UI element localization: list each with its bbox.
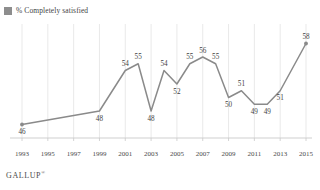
x-tick-label: 2007 xyxy=(196,150,210,158)
x-tick-label: 2001 xyxy=(118,150,132,158)
data-label: 50 xyxy=(225,101,233,109)
data-label: 46 xyxy=(18,128,26,136)
data-label: 48 xyxy=(96,115,104,123)
gallup-line-chart: % Completely satisfied 46485455485452555… xyxy=(0,0,320,190)
registered-mark: ® xyxy=(41,170,45,175)
x-axis-tick-labels: 1993199519971999200120032005200720092011… xyxy=(8,150,312,164)
x-tick-label: 2011 xyxy=(247,150,261,158)
x-tick-label: 2009 xyxy=(222,150,236,158)
x-tick-label: 1997 xyxy=(67,150,81,158)
data-label: 55 xyxy=(135,53,143,61)
series-point xyxy=(20,123,24,127)
series-plot: 46485455485452555655505149495158 xyxy=(8,24,312,146)
x-tick-label: 1993 xyxy=(15,150,29,158)
x-tick-label: 2005 xyxy=(170,150,184,158)
data-label: 56 xyxy=(199,47,207,55)
data-label: 54 xyxy=(122,60,130,68)
data-label: 49 xyxy=(264,108,272,116)
data-label: 52 xyxy=(173,88,181,96)
x-tick-label: 1999 xyxy=(92,150,106,158)
data-label: 51 xyxy=(277,94,285,102)
chart-legend: % Completely satisfied xyxy=(4,6,88,15)
legend-square-icon xyxy=(4,7,12,15)
data-label: 49 xyxy=(251,108,259,116)
data-label: 55 xyxy=(186,53,194,61)
gallup-brand: GALLUP® xyxy=(6,170,46,180)
gridlines xyxy=(22,24,306,138)
data-label: 48 xyxy=(147,115,155,123)
legend-label: % Completely satisfied xyxy=(16,6,88,15)
x-tick-label: 2013 xyxy=(273,150,287,158)
x-tick-label: 1995 xyxy=(41,150,55,158)
data-label: 55 xyxy=(212,53,220,61)
gallup-wordmark: GALLUP xyxy=(6,171,41,180)
data-label: 54 xyxy=(160,60,168,68)
series-point xyxy=(304,42,308,46)
x-tick-label: 2003 xyxy=(144,150,158,158)
axis xyxy=(10,138,312,141)
data-label: 58 xyxy=(302,33,310,41)
data-label: 51 xyxy=(238,80,246,88)
plot-area: 46485455485452555655505149495158 xyxy=(8,24,312,146)
x-tick-label: 2015 xyxy=(299,150,313,158)
series-data-labels: 46485455485452555655505149495158 xyxy=(18,33,310,136)
